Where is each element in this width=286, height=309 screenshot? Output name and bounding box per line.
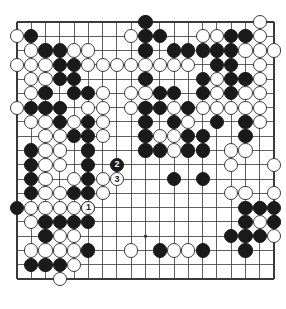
white-stone	[238, 86, 252, 100]
white-stone	[38, 243, 52, 257]
white-stone	[267, 43, 281, 57]
black-stone	[196, 143, 210, 157]
white-stone	[96, 58, 110, 72]
go-board[interactable]: 123	[0, 0, 286, 309]
white-stone	[96, 115, 110, 129]
black-stone	[38, 43, 52, 57]
black-stone	[24, 143, 38, 157]
white-stone	[38, 129, 52, 143]
black-stone	[196, 243, 210, 257]
white-stone	[167, 58, 181, 72]
white-stone	[253, 43, 267, 57]
white-stone	[253, 101, 267, 115]
black-stone	[53, 43, 67, 57]
white-stone	[24, 243, 38, 257]
white-stone	[10, 58, 24, 72]
black-stone	[238, 29, 252, 43]
black-stone	[53, 58, 67, 72]
white-stone	[267, 158, 281, 172]
white-stone	[153, 58, 167, 72]
white-stone	[110, 58, 124, 72]
black-stone	[53, 101, 67, 115]
white-stone	[124, 101, 138, 115]
black-stone	[181, 43, 195, 57]
black-stone	[38, 101, 52, 115]
black-stone	[38, 86, 52, 100]
white-stone	[67, 43, 81, 57]
black-stone	[38, 229, 52, 243]
black-stone	[181, 143, 195, 157]
black-stone	[24, 101, 38, 115]
white-stone	[38, 158, 52, 172]
white-stone	[196, 101, 210, 115]
white-stone	[196, 29, 210, 43]
black-stone	[224, 43, 238, 57]
white-stone	[96, 101, 110, 115]
white-stone	[38, 201, 52, 215]
white-stone	[210, 101, 224, 115]
black-stone	[253, 229, 267, 243]
white-stone	[38, 186, 52, 200]
black-stone	[138, 72, 152, 86]
black-stone	[81, 143, 95, 157]
white-stone	[253, 215, 267, 229]
black-stone	[138, 29, 152, 43]
white-stone	[167, 143, 181, 157]
white-stone	[238, 43, 252, 57]
black-stone	[238, 201, 252, 215]
black-stone	[238, 243, 252, 257]
white-stone	[138, 86, 152, 100]
white-stone	[53, 158, 67, 172]
white-stone	[253, 15, 267, 29]
white-stone	[224, 143, 238, 157]
white-stone	[10, 101, 24, 115]
white-stone	[53, 243, 67, 257]
black-stone	[81, 243, 95, 257]
white-stone	[38, 172, 52, 186]
white-stone	[167, 101, 181, 115]
white-stone	[96, 129, 110, 143]
black-stone	[196, 43, 210, 57]
white-stone	[167, 243, 181, 257]
black-stone	[210, 43, 224, 57]
black-stone	[153, 243, 167, 257]
white-stone	[96, 172, 110, 186]
move-2-black: 2	[110, 158, 124, 172]
white-stone	[53, 143, 67, 157]
black-stone	[210, 58, 224, 72]
black-stone	[138, 143, 152, 157]
white-stone	[238, 143, 252, 157]
black-stone	[38, 258, 52, 272]
black-stone	[138, 43, 152, 57]
go-diagram-root: 123	[0, 0, 286, 309]
white-stone	[253, 115, 267, 129]
black-stone	[53, 215, 67, 229]
black-stone	[167, 43, 181, 57]
white-stone	[67, 258, 81, 272]
move-number-label: 3	[114, 175, 119, 184]
black-stone	[153, 143, 167, 157]
black-stone	[196, 72, 210, 86]
black-stone	[38, 215, 52, 229]
white-stone	[53, 272, 67, 286]
black-stone	[153, 101, 167, 115]
black-stone	[138, 101, 152, 115]
white-stone	[224, 101, 238, 115]
black-stone	[196, 172, 210, 186]
move-number-label: 1	[86, 203, 91, 212]
white-stone	[38, 115, 52, 129]
white-stone	[253, 72, 267, 86]
white-stone	[38, 72, 52, 86]
move-number-label: 2	[114, 160, 119, 169]
white-stone	[181, 243, 195, 257]
black-stone	[238, 72, 252, 86]
white-stone	[124, 243, 138, 257]
black-stone	[267, 201, 281, 215]
black-stone	[10, 201, 24, 215]
white-stone	[224, 158, 238, 172]
white-stone	[67, 243, 81, 257]
white-stone	[53, 201, 67, 215]
black-stone	[53, 258, 67, 272]
white-stone	[38, 143, 52, 157]
white-stone	[24, 201, 38, 215]
